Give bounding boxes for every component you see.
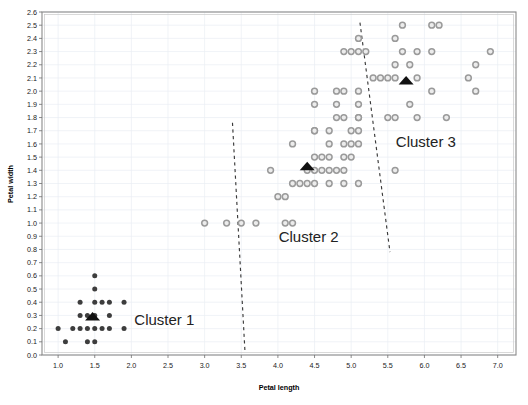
data-point <box>385 75 391 81</box>
data-point <box>392 115 398 121</box>
y-tick-label: 2.4 <box>27 34 37 43</box>
data-point <box>78 313 83 318</box>
data-point <box>348 141 354 147</box>
data-point <box>312 128 318 134</box>
cluster-label-2: Cluster 2 <box>279 228 339 245</box>
data-point <box>348 154 354 160</box>
data-point <box>282 220 288 226</box>
data-point <box>319 154 325 160</box>
data-point <box>378 75 384 81</box>
data-point <box>312 154 318 160</box>
data-point <box>392 62 398 68</box>
data-point <box>414 75 420 81</box>
x-tick-label: 3.5 <box>236 361 246 370</box>
data-point <box>341 181 347 187</box>
y-tick-label: 0.4 <box>27 298 37 307</box>
data-point <box>319 167 325 173</box>
y-tick-label: 2.6 <box>27 8 37 17</box>
y-axis-title: Petal width <box>6 165 15 203</box>
data-point <box>268 167 274 173</box>
data-point <box>107 326 112 331</box>
y-tick-label: 1.9 <box>27 100 37 109</box>
y-tick-label: 1.1 <box>27 205 37 214</box>
data-point <box>92 287 97 292</box>
data-point <box>290 220 296 226</box>
series-3-points <box>312 22 494 173</box>
data-point <box>341 49 347 55</box>
data-point <box>312 181 318 187</box>
centroid-marker-cluster-3 <box>399 76 414 85</box>
data-point <box>334 101 340 107</box>
x-tick-label: 2.5 <box>163 361 173 370</box>
y-tick-label: 0.8 <box>27 245 37 254</box>
data-point <box>85 326 90 331</box>
data-point <box>85 339 90 344</box>
y-axis-ticks: 0.00.10.20.30.40.50.60.70.80.91.01.11.21… <box>27 8 42 360</box>
data-point <box>473 88 479 94</box>
data-point <box>356 88 362 94</box>
y-tick-label: 1.4 <box>27 166 37 175</box>
data-point <box>312 88 318 94</box>
data-point <box>78 300 83 305</box>
y-tick-label: 0.6 <box>27 271 37 280</box>
y-tick-label: 2.5 <box>27 21 37 30</box>
data-point <box>429 49 435 55</box>
data-point <box>326 141 332 147</box>
y-tick-label: 2.3 <box>27 47 37 56</box>
data-point <box>341 154 347 160</box>
data-point <box>202 220 208 226</box>
data-point <box>385 115 391 121</box>
data-point <box>356 101 362 107</box>
x-tick-label: 5.5 <box>383 361 393 370</box>
y-tick-label: 0.0 <box>27 351 37 360</box>
data-point <box>312 101 318 107</box>
data-point <box>290 181 296 187</box>
x-tick-label: 7.0 <box>493 361 503 370</box>
data-point <box>356 141 362 147</box>
x-axis-ticks: 1.01.52.02.53.03.54.04.55.05.56.06.57.0 <box>53 355 503 370</box>
data-point <box>334 115 340 121</box>
data-point <box>326 154 332 160</box>
data-point <box>436 22 442 28</box>
data-point <box>334 167 340 173</box>
y-tick-label: 0.1 <box>27 337 37 346</box>
data-point <box>348 128 354 134</box>
data-point <box>414 49 420 55</box>
data-point <box>100 326 105 331</box>
cluster-label-3: Cluster 3 <box>396 133 456 150</box>
data-point <box>326 181 332 187</box>
centroid-markers-layer <box>85 76 414 321</box>
cluster-separator-lines <box>232 23 390 351</box>
y-tick-label: 2.2 <box>27 60 37 69</box>
x-tick-label: 1.0 <box>53 361 63 370</box>
data-point <box>392 167 398 173</box>
y-tick-label: 1.3 <box>27 179 37 188</box>
data-point <box>122 326 127 331</box>
data-point <box>341 115 347 121</box>
y-tick-label: 0.3 <box>27 311 37 320</box>
data-point <box>122 300 127 305</box>
y-tick-label: 1.6 <box>27 140 37 149</box>
data-point <box>400 22 406 28</box>
grid-layer <box>42 12 516 355</box>
x-tick-label: 3.0 <box>200 361 210 370</box>
data-point <box>473 62 479 68</box>
data-point <box>429 22 435 28</box>
data-point <box>356 181 362 187</box>
data-point <box>63 339 68 344</box>
data-point <box>282 194 288 200</box>
x-tick-label: 2.0 <box>126 361 136 370</box>
cluster2-cluster3-boundary <box>360 23 390 253</box>
data-point <box>107 300 112 305</box>
data-point <box>444 115 450 121</box>
data-point <box>392 35 398 41</box>
y-tick-label: 0.7 <box>27 258 37 267</box>
data-point <box>304 181 310 187</box>
y-tick-label: 1.0 <box>27 219 37 228</box>
data-point <box>348 49 354 55</box>
data-point <box>465 75 471 81</box>
x-tick-label: 5.0 <box>346 361 356 370</box>
data-point <box>356 115 362 121</box>
data-point <box>356 49 362 55</box>
data-point <box>392 75 398 81</box>
